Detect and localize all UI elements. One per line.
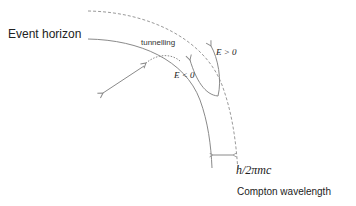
event-horizon-label: Event horizon <box>8 27 81 41</box>
infalling-particle-arrow <box>103 66 144 93</box>
tunnelling-path <box>146 56 180 63</box>
event-horizon-curve <box>88 39 212 168</box>
tunnelling-label: tunnelling <box>141 38 175 47</box>
negative-energy-label: E < 0 <box>174 70 195 80</box>
compton-boundary-curve <box>88 11 238 172</box>
positive-energy-label: E > 0 <box>216 47 237 57</box>
compton-formula-label: h/2πmc <box>236 163 271 178</box>
compton-wavelength-label: Compton wavelength <box>237 186 331 197</box>
